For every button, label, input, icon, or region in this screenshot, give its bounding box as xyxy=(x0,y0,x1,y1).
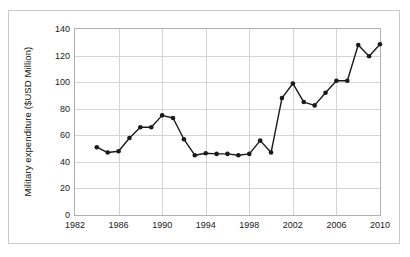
plot-area: 020406080100120140 198219861990199419982… xyxy=(74,28,381,216)
data-point-marker xyxy=(356,43,361,48)
y-axis-title-text: Military expenditure ($USD Million) xyxy=(23,46,34,196)
x-axis-tick-label: 2006 xyxy=(326,221,346,230)
data-point-marker xyxy=(334,79,339,84)
data-point-marker xyxy=(138,125,143,130)
series-markers xyxy=(94,42,382,158)
x-axis-tick-label: 1982 xyxy=(65,221,85,230)
data-point-marker xyxy=(258,138,263,143)
chart-figure: Military expenditure ($USD Million) 0204… xyxy=(8,10,400,244)
data-point-marker xyxy=(116,149,121,154)
x-axis-tick-label: 1994 xyxy=(196,221,216,230)
y-axis-tick-label: 20 xyxy=(60,184,70,193)
x-axis-tick-label: 1986 xyxy=(109,221,129,230)
y-axis-tick-label: 100 xyxy=(55,78,70,87)
data-point-marker xyxy=(247,152,252,157)
data-point-marker xyxy=(323,90,328,95)
data-point-marker xyxy=(171,116,176,121)
data-point-marker xyxy=(105,150,110,155)
y-axis-tick-label: 60 xyxy=(60,131,70,140)
y-axis-tick-label: 80 xyxy=(60,104,70,113)
y-axis-title: Military expenditure ($USD Million) xyxy=(21,28,35,214)
x-axis-tick-label: 2010 xyxy=(370,221,390,230)
y-axis-tick-label: 0 xyxy=(65,211,70,220)
data-point-marker xyxy=(225,152,230,157)
data-point-marker xyxy=(301,100,306,105)
x-axis-tick-label: 1998 xyxy=(239,221,259,230)
data-point-marker xyxy=(345,79,350,84)
data-point-marker xyxy=(94,145,99,150)
x-axis-tick-label: 1990 xyxy=(152,221,172,230)
y-axis-tick-label: 120 xyxy=(55,51,70,60)
y-axis-tick-label: 140 xyxy=(55,25,70,34)
x-axis-tick-label: 2002 xyxy=(283,221,303,230)
data-point-marker xyxy=(203,151,208,156)
data-point-marker xyxy=(280,96,285,101)
data-point-marker xyxy=(160,113,165,118)
data-point-marker xyxy=(269,150,274,155)
data-point-marker xyxy=(312,103,317,108)
data-point-marker xyxy=(214,152,219,157)
data-point-marker xyxy=(291,81,296,86)
data-point-marker xyxy=(236,153,241,158)
data-point-marker xyxy=(378,42,383,47)
data-point-marker xyxy=(367,54,372,59)
data-point-marker xyxy=(149,125,154,130)
y-axis-tick-label: 40 xyxy=(60,157,70,166)
series-line xyxy=(97,44,380,155)
data-point-marker xyxy=(127,136,132,141)
data-point-marker xyxy=(182,137,187,142)
data-point-marker xyxy=(193,153,198,158)
series-plot xyxy=(75,29,380,215)
